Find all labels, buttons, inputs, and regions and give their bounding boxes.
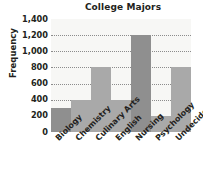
gridline (51, 84, 191, 85)
chart-figure: College Majors Frequency 1,4001,2001,000… (0, 0, 203, 193)
y-tick-label: 400 (2, 94, 48, 104)
gridline (51, 67, 191, 68)
y-tick-label: 1,400 (2, 14, 48, 24)
x-axis-tick-labels: BiologyChemistryCulinary ArtsEnglishNurs… (0, 132, 203, 193)
y-tick-label: 600 (2, 78, 48, 88)
chart-title: College Majors (48, 2, 198, 12)
y-tick-label: 800 (2, 62, 48, 72)
y-tick-label: 1,200 (2, 30, 48, 40)
y-axis-tick-labels: 1,4001,2001,0008006004002000 (0, 19, 48, 132)
gridline (51, 51, 191, 52)
y-tick-label: 1,000 (2, 46, 48, 56)
gridline (51, 35, 191, 36)
y-tick-label: 200 (2, 110, 48, 120)
